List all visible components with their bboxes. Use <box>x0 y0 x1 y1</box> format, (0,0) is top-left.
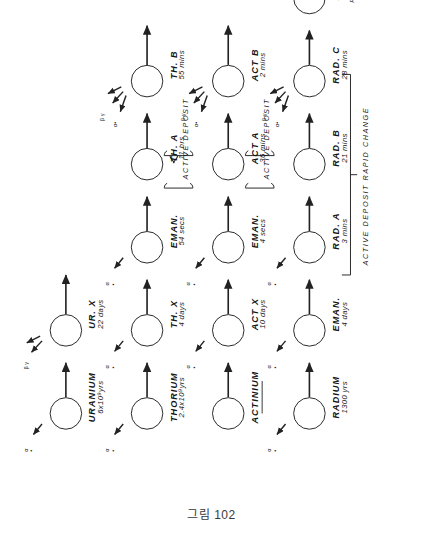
particle-cluster: α • <box>266 448 277 451</box>
label-rad-d: RAD. D 40 yrs RADIO-LEAD <box>331 0 356 23</box>
node-label: URANIUM <box>87 356 97 438</box>
node-thorium-a[interactable] <box>130 148 162 180</box>
node-rad-b[interactable] <box>293 148 325 180</box>
bracket-label-rapid-change: ACTIVE DEPOSIT RAPID CHANGE <box>360 107 369 266</box>
node-label: RAD. B <box>331 107 341 189</box>
label-actinium-b: ACT B 2 mins <box>250 24 268 106</box>
node-thorium-b[interactable] <box>130 65 162 97</box>
node-actinium-b[interactable] <box>212 65 244 97</box>
particle-cluster: α• <box>111 122 117 127</box>
node-halflife: 4 days <box>340 273 348 355</box>
unknown-halflife-rule <box>261 381 262 413</box>
figure-caption: 그림 102 <box>0 505 423 522</box>
particle-cluster: α • <box>185 282 196 285</box>
node-label: ACT B <box>250 24 260 106</box>
label-actinium: ACTINIUM <box>250 356 262 438</box>
particle-cluster: α • <box>104 365 115 368</box>
label-radium-emanation: EMAN. 4 days <box>331 273 349 355</box>
particle-cluster: α • <box>266 282 277 285</box>
node-actinium[interactable] <box>212 397 244 429</box>
node-rad-a[interactable] <box>293 231 325 263</box>
label-uranium-x: UR. X 22 days <box>87 273 105 355</box>
node-label: RADIUM <box>331 356 341 438</box>
node-label: EMAN. <box>169 190 179 272</box>
node-halflife: 1300 yrs <box>340 356 348 438</box>
label-rad-c: RAD. C 28 mins <box>331 24 349 106</box>
node-label: RAD. D <box>331 0 341 23</box>
node-halflife: 2 mins <box>259 24 267 106</box>
particle-cluster: α • <box>185 365 196 368</box>
node-radium-emanation[interactable] <box>293 314 325 346</box>
particle-cluster: α• <box>274 122 280 127</box>
node-thorium-emanation[interactable] <box>130 231 162 263</box>
particle-cluster: α• <box>192 122 198 127</box>
node-thorium[interactable] <box>130 397 162 429</box>
node-label: EMAN. <box>331 273 341 355</box>
node-label: EMAN. <box>250 190 260 272</box>
node-label: THORIUM <box>169 356 179 438</box>
label-thorium-emanation: EMAN. 54 secs <box>169 190 187 272</box>
node-label: UR. X <box>87 273 97 355</box>
particle-cluster: α • <box>104 282 115 285</box>
node-halflife: 55 mins <box>178 24 186 106</box>
label-thorium-b: TH. B 55 mins <box>169 24 187 106</box>
particle-cluster: α • <box>22 448 33 451</box>
bracket-label-actinium-active-deposit: ACTIVE DEPOSIT <box>262 98 271 179</box>
label-rad-a: RAD. A 3 mins <box>331 190 349 272</box>
node-uranium[interactable] <box>49 397 81 429</box>
node-actinium-x[interactable] <box>212 314 244 346</box>
node-thorium-x[interactable] <box>130 314 162 346</box>
figure-stage: URANIUM 6x10⁹yrs UR. X 22 days α • β γ T… <box>0 0 423 552</box>
node-label: ACTINIUM <box>250 356 260 438</box>
node-radium[interactable] <box>293 397 325 429</box>
label-actinium-x: ACT X 10 days <box>250 273 268 355</box>
particle-cluster: β γ <box>261 113 267 121</box>
label-rad-b: RAD. B 21 mins <box>331 107 349 189</box>
decay-series-plate: URANIUM 6x10⁹yrs UR. X 22 days α • β γ T… <box>21 0 403 471</box>
node-halflife: 21 mins <box>340 107 348 189</box>
label-radium: RADIUM 1300 yrs <box>331 356 349 438</box>
node-label: TH. A <box>169 107 179 189</box>
node-uranium-x[interactable] <box>49 314 81 346</box>
node-label: ACT A <box>250 107 260 189</box>
node-rad-c[interactable] <box>293 65 325 97</box>
node-actinium-a[interactable] <box>212 148 244 180</box>
node-halflife: 28 mins <box>340 24 348 106</box>
particle-cluster: α • <box>266 365 277 368</box>
node-alt-name: RADIO-LEAD <box>349 0 355 23</box>
node-label: TH. X <box>169 273 179 355</box>
node-halflife: 54 secs <box>178 190 186 272</box>
particle-cluster: β γ <box>180 113 186 121</box>
node-label: RAD. C <box>331 24 341 106</box>
label-actinium-emanation: EMAN. 4 secs <box>250 190 268 272</box>
node-label: ACT X <box>250 273 260 355</box>
particle-cluster: α • <box>104 448 115 451</box>
particle-cluster: β γ <box>22 362 28 370</box>
node-halflife: 3 mins <box>340 190 348 272</box>
node-label: RAD. A <box>331 190 341 272</box>
particle-cluster: β γ <box>99 113 105 121</box>
node-halflife: 40 yrs <box>340 0 348 23</box>
label-thorium: THORIUM 2.4x10⁹yrs <box>169 356 187 438</box>
node-actinium-emanation[interactable] <box>212 231 244 263</box>
node-halflife: 4 secs <box>259 190 267 272</box>
node-label: TH. B <box>169 24 179 106</box>
bracket-label-thorium-active-deposit: ACTIVE DEPOSIT <box>181 98 190 179</box>
label-uranium: URANIUM 6x10⁹yrs <box>87 356 105 438</box>
label-thorium-x: TH. X 4 days <box>169 273 187 355</box>
